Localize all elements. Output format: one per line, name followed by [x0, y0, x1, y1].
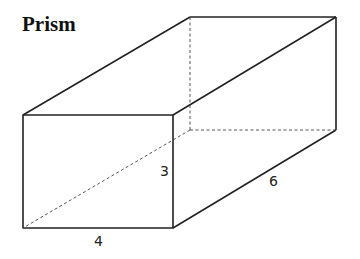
- top-right-edge: [173, 17, 336, 115]
- depth-label: 6: [269, 173, 278, 189]
- hidden-bottom-left-edge: [23, 130, 190, 228]
- bottom-right-edge: [173, 130, 336, 228]
- length-label: 4: [94, 233, 103, 249]
- prism-diagram: 4 3 6: [0, 0, 360, 259]
- height-label: 3: [160, 163, 169, 179]
- top-left-edge: [23, 17, 190, 115]
- front-face: [23, 115, 173, 228]
